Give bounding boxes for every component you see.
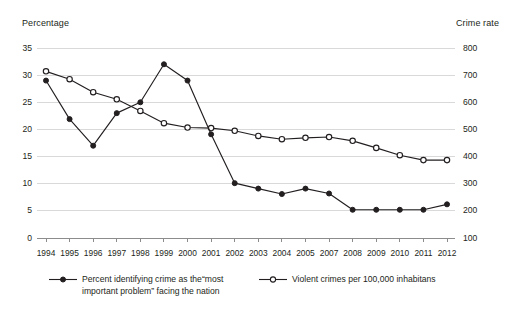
x-axis-tick-marks <box>46 238 447 242</box>
y-axis-tick-label-left: 35 <box>12 43 32 53</box>
series-violent-crime-rate <box>43 69 449 163</box>
y-axis-tick-label-right: 100 <box>463 233 489 243</box>
chart-container: Percentage Crime rate 05101520253035 100… <box>0 0 507 314</box>
y-axis-tick-label-left: 30 <box>12 70 32 80</box>
chart-legend: Percent identifying crime as the“most im… <box>0 272 507 314</box>
legend-item-percent: Percent identifying crime as the“most im… <box>48 274 248 297</box>
y-axis-tick-label-right: 300 <box>463 178 489 188</box>
y-axis-tick-label-right: 500 <box>463 124 489 134</box>
y-axis-tick-label-right: 700 <box>463 70 489 80</box>
y-axis-tick-label-left: 20 <box>12 124 32 134</box>
y-axis-tick-label-left: 0 <box>12 233 32 243</box>
plot-area <box>0 0 507 314</box>
y-axis-tick-label-left: 10 <box>12 178 32 188</box>
legend-marker-filled-circle-icon <box>48 274 78 285</box>
legend-marker-open-circle-icon <box>258 274 288 285</box>
y-axis-tick-label-left: 15 <box>12 151 32 161</box>
y-axis-tick-label-left: 25 <box>12 97 32 107</box>
y-axis-tick-label-left: 5 <box>12 205 32 215</box>
y-axis-tick-label-right: 800 <box>463 43 489 53</box>
legend-label-crime-rate: Violent crimes per 100,000 inhabitans <box>292 274 498 286</box>
legend-item-crime-rate: Violent crimes per 100,000 inhabitans <box>258 274 498 286</box>
legend-label-percent: Percent identifying crime as the“most im… <box>82 274 248 297</box>
y-axis-tick-label-right: 400 <box>463 151 489 161</box>
y-axis-tick-label-right: 600 <box>463 97 489 107</box>
gridlines <box>37 48 455 211</box>
y-axis-tick-label-right: 200 <box>463 205 489 215</box>
x-axis-tick-label: 2012 <box>432 248 462 258</box>
series-percent-most-important-problem <box>44 62 450 212</box>
